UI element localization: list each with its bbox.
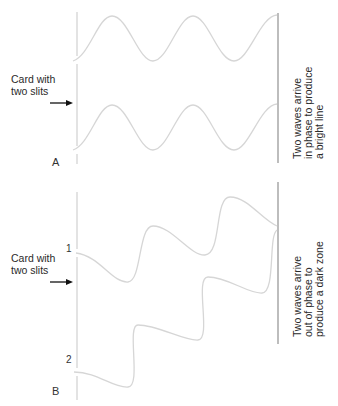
panel-a-result-caption: Two waves arrive in phase to produce a b…: [292, 67, 326, 159]
panel-a-card-label-line1: Card with: [11, 73, 55, 85]
panel-b-result-caption: Two waves arrive out of phase to produce…: [292, 241, 326, 337]
diagram-canvas: [0, 0, 338, 406]
panel-b-letter: B: [52, 385, 59, 397]
panel-b-slit-2-label: 2: [66, 354, 72, 365]
panel-a-letter: A: [52, 156, 59, 168]
panel-b-result-line3: produce a dark zone: [314, 241, 325, 337]
panel-b-wave-1: [76, 197, 277, 282]
panel-a-wave-2: [73, 104, 277, 150]
panel-a-card-label-line2: two slits: [11, 85, 48, 97]
panel-b-slit-1-label: 1: [66, 243, 72, 254]
panel-a-result-line3: a bright line: [314, 67, 325, 159]
panel-b-card-label-line1: Card with: [11, 252, 55, 264]
panel-b-card-label-line2: two slits: [11, 264, 48, 276]
panel-b-wave-2: [74, 230, 277, 387]
panel-a-wave-1: [73, 15, 277, 61]
panel-b-arrow-icon: [50, 279, 73, 285]
panel-a-arrow-icon: [50, 100, 73, 106]
